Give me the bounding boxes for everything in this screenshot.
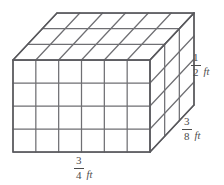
figure-container: 1 2 ft 3 8 ft 3 4 ft [0,0,224,185]
width-numerator: 3 [74,155,84,168]
height-dimension-label: 1 2 ft [191,52,209,78]
height-numerator: 1 [191,52,201,65]
depth-dimension-label: 3 8 ft [182,116,200,142]
top-face-depth-lines [13,13,194,60]
depth-unit: ft [195,131,201,143]
width-dimension-label: 3 4 ft [74,155,92,181]
depth-numerator: 3 [182,116,192,129]
width-fraction: 3 4 [74,155,84,181]
height-fraction: 1 2 [191,52,201,78]
prism-figure [0,0,224,185]
height-denominator: 2 [191,66,201,79]
width-denominator: 4 [74,169,84,182]
height-unit: ft [204,67,210,79]
width-unit: ft [87,170,93,182]
depth-fraction: 3 8 [182,116,192,142]
depth-denominator: 8 [182,130,192,143]
